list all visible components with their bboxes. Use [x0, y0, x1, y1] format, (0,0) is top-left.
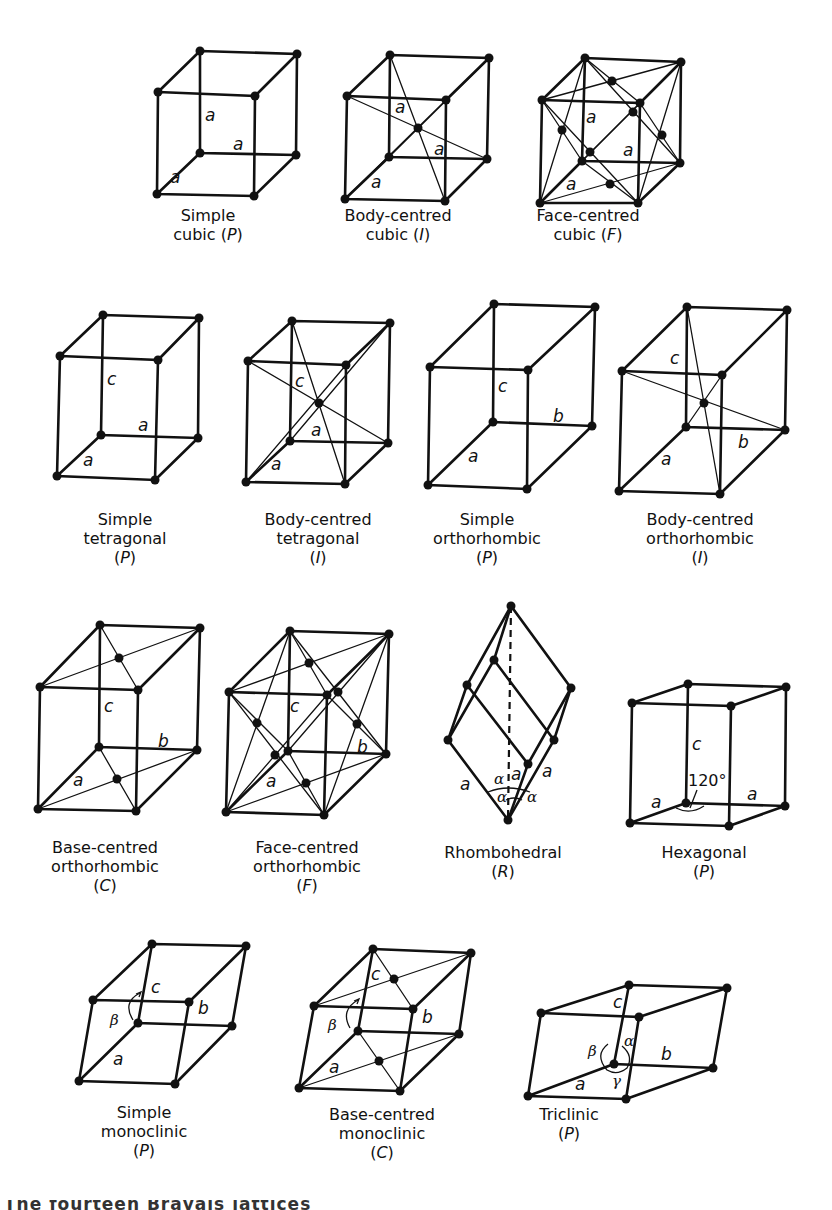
- axis-label-a: a: [170, 167, 180, 187]
- axis-label-a: a: [205, 105, 215, 125]
- axis-label-b: b: [661, 1044, 672, 1064]
- lattice-base-centred-monoclinic: c b a β: [295, 945, 476, 1096]
- axis-label-c: c: [498, 376, 508, 396]
- axis-label-a: a: [575, 1074, 585, 1094]
- lattice-body-centred-tetragonal: c a a: [242, 317, 395, 489]
- axis-label-a: a: [266, 771, 276, 791]
- axis-label-b: b: [198, 998, 209, 1018]
- angle-label-beta: β: [587, 1042, 597, 1060]
- caption-hexagonal: Hexagonal (P): [614, 843, 794, 881]
- axis-label-a: a: [651, 792, 661, 812]
- lattice-simple-cubic: a a a: [153, 47, 302, 201]
- angle-label-alpha: α: [494, 770, 504, 788]
- lattice-face-centred-orthorhombic: c b a: [222, 627, 394, 820]
- axis-label-b: b: [738, 432, 749, 452]
- caption-base-centred-orthorhombic: Base-centred orthorhombic (C): [15, 838, 195, 895]
- axis-label-a: a: [138, 415, 148, 435]
- caption-body-centred-cubic: Body-centred cubic (I): [308, 206, 488, 244]
- axis-label-a: a: [460, 774, 470, 794]
- caption-face-centred-orthorhombic: Face-centred orthorhombic (F): [217, 838, 397, 895]
- axis-label-a: a: [586, 107, 596, 127]
- lattice-simple-tetragonal: c a a: [53, 311, 204, 485]
- axis-label-c: c: [104, 696, 114, 716]
- axis-label-b: b: [357, 737, 368, 757]
- lattice-hexagonal: c a a 120°: [626, 680, 791, 831]
- lattice-simple-monoclinic: c b a β: [75, 940, 251, 1089]
- lattice-body-centred-cubic: a a a: [341, 51, 494, 206]
- axis-label-a: a: [566, 174, 576, 194]
- angle-label-alpha: α: [497, 788, 507, 806]
- axis-label-a: a: [542, 761, 552, 781]
- axis-label-a: a: [233, 134, 243, 154]
- axis-label-c: c: [151, 977, 161, 997]
- axis-label-a: a: [661, 449, 671, 469]
- angle-label-120: 120°: [688, 771, 727, 790]
- axis-label-b: b: [158, 731, 169, 751]
- lattice-face-centred-cubic: a a a: [536, 54, 686, 208]
- axis-label-c: c: [613, 992, 623, 1012]
- axis-label-a: a: [468, 446, 478, 466]
- caption-body-centred-tetragonal: Body-centred tetragonal (I): [228, 510, 408, 567]
- axis-label-c: c: [371, 964, 381, 984]
- axis-label-a: a: [434, 139, 444, 159]
- axis-label-c: c: [670, 348, 680, 368]
- lattice-rhombohedral: a a a α α α: [444, 602, 576, 825]
- figure-caption-cutoff: The fourteen Bravais lattices: [0, 1200, 832, 1210]
- angle-label-alpha: α: [624, 1032, 634, 1050]
- lattice-triclinic: c b a β α γ: [524, 981, 732, 1104]
- angle-label-alpha: α: [527, 788, 537, 806]
- axis-label-a: a: [271, 454, 281, 474]
- caption-base-centred-monoclinic: Base-centred monoclinic (C): [292, 1105, 472, 1162]
- axis-label-a: a: [329, 1057, 339, 1077]
- axis-label-b: b: [422, 1007, 433, 1027]
- axis-label-a: a: [83, 450, 93, 470]
- axis-label-a: a: [311, 420, 321, 440]
- caption-simple-tetragonal: Simple tetragonal (P): [35, 510, 215, 567]
- axis-label-a: a: [623, 140, 633, 160]
- axis-label-a: a: [113, 1049, 123, 1069]
- angle-label-beta: β: [109, 1011, 119, 1029]
- axis-label-c: c: [692, 734, 702, 754]
- lattice-body-centred-orthorhombic: c b a: [615, 303, 792, 499]
- axis-label-a: a: [371, 172, 381, 192]
- axis-label-c: c: [107, 369, 117, 389]
- angle-label-beta: β: [327, 1016, 337, 1034]
- axis-label-c: c: [290, 696, 300, 716]
- axis-label-b: b: [553, 406, 564, 426]
- axis-label-c: c: [295, 371, 305, 391]
- lattice-base-centred-orthorhombic: c b a: [34, 621, 205, 816]
- caption-face-centred-cubic: Face-centred cubic (F): [498, 206, 678, 244]
- caption-simple-cubic: Simple cubic (P): [118, 206, 298, 244]
- axis-label-a: a: [395, 97, 405, 117]
- axis-label-a: a: [747, 784, 757, 804]
- caption-rhombohedral: Rhombohedral (R): [413, 843, 593, 881]
- caption-simple-orthorhombic: Simple orthorhombic (P): [397, 510, 577, 567]
- axis-label-a: a: [73, 770, 83, 790]
- axis-label-a: a: [511, 764, 521, 784]
- caption-simple-monoclinic: Simple monoclinic (P): [54, 1103, 234, 1160]
- caption-triclinic: Triclinic (P): [479, 1105, 659, 1143]
- caption-body-centred-orthorhombic: Body-centred orthorhombic (I): [610, 510, 790, 567]
- angle-label-gamma: γ: [612, 1072, 621, 1090]
- lattice-simple-orthorhombic: c b a: [424, 300, 600, 494]
